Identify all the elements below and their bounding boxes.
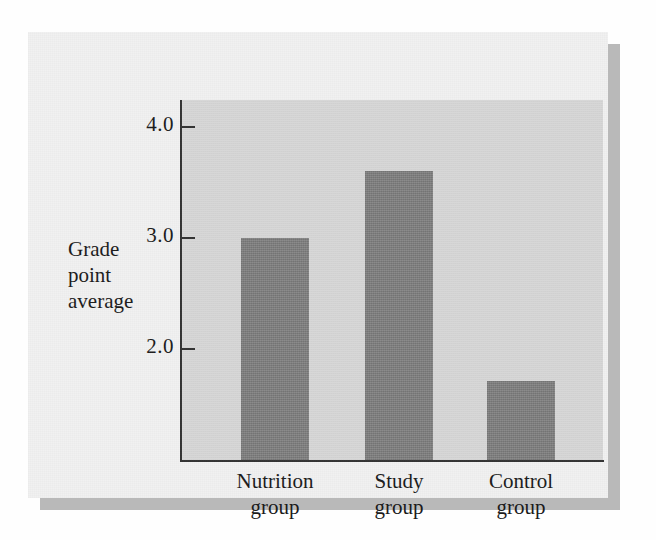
y-axis-title-line-3: average — [68, 288, 178, 314]
y-axis-title-line-1: Grade — [68, 236, 178, 262]
y-tick-mark-3 — [182, 237, 195, 239]
bar-control-group — [487, 381, 555, 460]
y-axis-title-line-2: point — [68, 262, 178, 288]
y-tick-label-4: 4.0 — [114, 112, 174, 137]
x-category-label-control-group-line-1: Control — [446, 468, 596, 494]
figure-card: 4.0 3.0 2.0 Grade point average Nutritio… — [28, 32, 608, 498]
y-tick-mark-2 — [182, 348, 195, 350]
y-tick-label-2: 2.0 — [114, 334, 174, 359]
y-axis-title: Grade point average — [68, 236, 178, 314]
bar-study-group — [365, 171, 433, 460]
bar-nutrition-group — [241, 238, 309, 460]
x-axis-line — [180, 460, 604, 462]
y-axis-line — [180, 100, 182, 462]
x-category-label-control-group-line-2: group — [446, 494, 596, 520]
x-category-label-control-group: Control group — [446, 468, 596, 520]
y-tick-mark-4 — [182, 126, 195, 128]
scanned-page: 4.0 3.0 2.0 Grade point average Nutritio… — [0, 0, 656, 540]
